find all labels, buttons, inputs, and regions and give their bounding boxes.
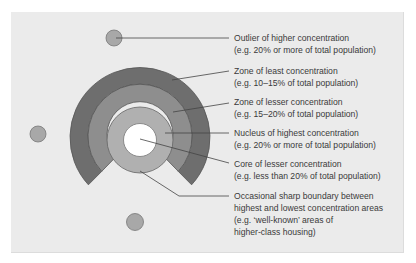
label-line: highest and lowest concentration areas [234,202,383,214]
label-title: Zone of lesser concentration [234,96,358,108]
label-outlier: Outlier of higher concentration (e.g. 20… [234,32,376,56]
label-boundary: Occasional sharp boundary between highes… [234,190,383,238]
label-line: higher-class housing) [234,226,383,238]
label-line: (e.g. 15–20% of total population) [234,108,358,120]
outlier-circle-bottom [127,214,144,231]
label-title: Core of lesser concentration [234,158,381,170]
outlier-circle-left [30,126,46,142]
label-zone-lesser: Zone of lesser concentration (e.g. 15–20… [234,96,358,120]
label-line: (e.g. 10–15% of total population) [234,77,358,89]
label-nucleus: Nucleus of highest concentration (e.g. 2… [234,127,376,151]
label-line: (e.g. ‘well-known’ areas of [234,214,383,226]
label-line: (e.g. 20% or more of total population) [234,139,376,151]
label-title: Nucleus of highest concentration [234,127,376,139]
label-title: Outlier of higher concentration [234,32,376,44]
label-title: Occasional sharp boundary between [234,190,383,202]
label-core: Core of lesser concentration (e.g. less … [234,158,381,182]
nucleus-circle [124,124,157,157]
leader-zone-least [172,71,229,80]
label-line: (e.g. 20% or more of total population) [234,44,376,56]
label-line: (e.g. less than 20% of total population) [234,170,381,182]
label-zone-least: Zone of least concentration (e.g. 10–15%… [234,65,358,89]
label-title: Zone of least concentration [234,65,358,77]
